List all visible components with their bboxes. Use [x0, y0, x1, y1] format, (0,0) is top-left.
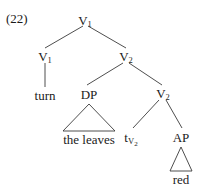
- node-trace-subscript: V2: [128, 136, 138, 146]
- node-dp: DP: [81, 88, 98, 101]
- node-v1-left: V1: [38, 50, 52, 65]
- node-v2-lower: V2: [156, 87, 170, 102]
- tree-branch-lines: [0, 0, 209, 193]
- node-root-v1-subscript: 1: [88, 19, 92, 29]
- node-v1-left-subscript: 1: [48, 55, 52, 65]
- node-v2-lower-label: V: [156, 86, 165, 101]
- branch-v2lower-to-ap: [166, 100, 182, 128]
- node-root-v1-label: V: [78, 13, 87, 28]
- branch-v2lower-to-trace: [133, 100, 159, 128]
- branch-root-to-v2upper: [88, 26, 126, 48]
- node-root-v1: V1: [78, 14, 92, 29]
- node-trace-v2: tV2: [124, 131, 137, 148]
- terminal-red: red: [173, 173, 190, 186]
- terminal-turn: turn: [35, 89, 56, 102]
- node-trace-subsubscript: 2: [134, 140, 138, 148]
- branch-root-to-v1left: [45, 26, 83, 48]
- node-v2-upper-subscript: 2: [129, 55, 133, 65]
- node-ap: AP: [173, 131, 190, 144]
- syntax-tree-figure: (22) V1 V1 V2: [0, 0, 209, 193]
- ap-triangle: [170, 147, 192, 171]
- example-number: (22): [6, 12, 28, 25]
- node-v2-lower-subscript: 2: [166, 92, 170, 102]
- dp-triangle: [63, 104, 115, 131]
- branch-v2upper-to-dp: [87, 63, 123, 85]
- branch-v2upper-to-v2lower: [129, 63, 162, 85]
- node-v1-left-label: V: [38, 49, 47, 64]
- node-v2-upper-label: V: [119, 49, 128, 64]
- node-v2-upper: V2: [119, 50, 133, 65]
- terminal-the-leaves: the leaves: [63, 133, 115, 146]
